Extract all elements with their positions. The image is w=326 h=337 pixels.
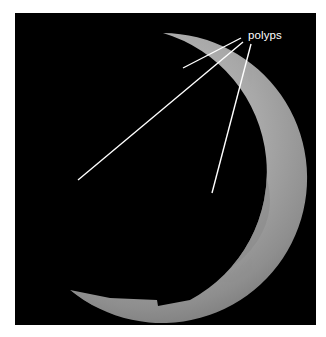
colon-fold [75, 173, 215, 277]
colon-fold [45, 115, 265, 285]
colon-fold [60, 147, 240, 283]
endoscope-view [17, 32, 309, 324]
polyp-upper-highlight [170, 59, 210, 81]
endoscopy-image [0, 0, 326, 337]
polyp-upper [148, 52, 216, 92]
polyp-left [58, 174, 94, 202]
colon-lumen [108, 209, 168, 266]
mucosa-background [17, 32, 309, 324]
polyps-label: polyps [248, 29, 282, 41]
specular-highlights [86, 69, 251, 281]
pointer-line-left [78, 42, 243, 180]
